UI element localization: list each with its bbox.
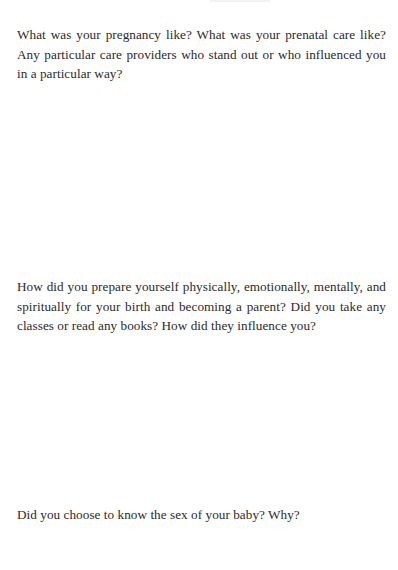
prompt-birth-preparation: How did you prepare yourself physically,…	[17, 277, 386, 336]
prompt-baby-sex: Did you choose to know the sex of your b…	[17, 505, 386, 525]
page-edge-artifact	[210, 0, 270, 2]
prompt-pregnancy-prenatal-care: What was your pregnancy like? What was y…	[17, 25, 386, 84]
